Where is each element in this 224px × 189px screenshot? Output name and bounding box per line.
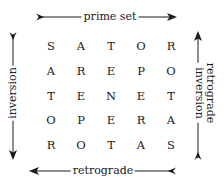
grid-cell: O: [66, 133, 96, 158]
grid-cell: R: [156, 34, 186, 59]
grid-cell: R: [66, 59, 96, 84]
retrograde-inversion-label: retrograde inversion: [192, 63, 218, 123]
grid-cell: A: [36, 59, 66, 84]
retrograde-inversion-label-line2: inversion: [194, 63, 205, 123]
grid-cell: N: [96, 84, 126, 109]
grid-cell: A: [66, 34, 96, 59]
grid-cell: P: [66, 108, 96, 133]
retrograde-label: retrograde: [71, 165, 135, 177]
grid-cell: O: [126, 34, 156, 59]
prime-set-label: prime set: [82, 11, 139, 23]
grid-cell: P: [126, 59, 156, 84]
grid-cell: R: [126, 108, 156, 133]
grid-cell: A: [126, 133, 156, 158]
grid-cell: E: [96, 108, 126, 133]
grid-cell: O: [156, 59, 186, 84]
grid-cell: T: [96, 133, 126, 158]
grid-cell: T: [96, 34, 126, 59]
grid-cell: E: [126, 84, 156, 109]
grid-cell: S: [36, 34, 66, 59]
grid-cell: E: [96, 59, 126, 84]
grid-cell: T: [36, 84, 66, 109]
grid-cell: T: [156, 84, 186, 109]
grid-cell: R: [36, 133, 66, 158]
inversion-label: inversion: [7, 65, 19, 120]
grid-cell: S: [156, 133, 186, 158]
grid-cell: O: [36, 108, 66, 133]
grid-cell: A: [156, 108, 186, 133]
grid-cell: E: [66, 84, 96, 109]
retrograde-inversion-label-line1: retrograde: [205, 63, 216, 123]
sator-square-grid: S A T O R A R E P O T E N E T O P E R A …: [36, 34, 186, 158]
